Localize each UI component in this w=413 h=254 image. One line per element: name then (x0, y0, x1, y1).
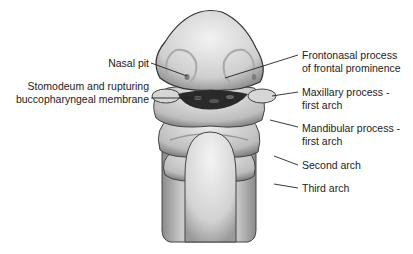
label-stomodeum: Stomodeum and rupturing buccopharyngeal … (16, 80, 149, 105)
label-frontonasal-process: Frontonasal process of frontal prominenc… (302, 49, 401, 74)
label-third-arch: Third arch (302, 182, 349, 195)
label-second-arch: Second arch (302, 159, 361, 172)
embryo-face-diagram: Nasal pit Stomodeum and rupturing buccop… (0, 0, 413, 254)
leader-second-arch (274, 156, 298, 165)
leader-third-arch (274, 184, 298, 188)
leader-mandibular (270, 120, 298, 127)
label-nasal-pit: Nasal pit (108, 57, 149, 70)
label-mandibular-process: Mandibular process - first arch (302, 122, 400, 147)
label-maxillary-process: Maxillary process - first arch (302, 86, 390, 111)
